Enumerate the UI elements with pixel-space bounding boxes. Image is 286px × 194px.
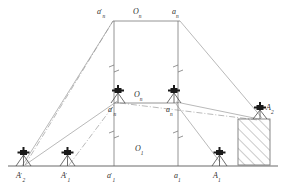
instrument-theodolite-A1prime [60, 147, 75, 166]
instrument-theodolite-A2prime [16, 147, 31, 166]
instrument-mast [259, 102, 261, 106]
instrument-mast [173, 85, 175, 89]
instrument-scope [168, 90, 180, 92]
structure-outline-group [113, 21, 180, 166]
break-mark-right-lower [173, 131, 183, 138]
instrument-theodolite-A1 [212, 147, 227, 166]
label-ground-A2-prime: A′2 [16, 172, 25, 180]
sightline-top-left-to-A2prime-edge [22, 21, 113, 166]
label-ground-a1: a1 [174, 172, 181, 180]
tripod-legs [111, 93, 125, 103]
break-mark-left-upper [109, 65, 119, 72]
instrument-scope [112, 90, 124, 92]
tripod-legs [60, 155, 75, 166]
tripod-legs [167, 93, 181, 103]
tripod-legs [253, 110, 267, 119]
label-top-left-point: a′n [97, 8, 105, 16]
instrument-mast [67, 147, 69, 151]
tripod-legs [16, 155, 31, 166]
sightline-mid-left-to-A2 [120, 103, 258, 120]
break-mark-left-lower [109, 131, 119, 138]
break-marks-group [109, 65, 183, 138]
block-hatch-fill [238, 119, 270, 165]
label-station-A2-elevated: A2 [266, 104, 274, 112]
tripod-legs [212, 155, 227, 166]
instrument-scope [18, 152, 30, 154]
label-top-origin: On [133, 8, 141, 16]
label-mid-right-point: an [166, 106, 173, 114]
instrument-mast [23, 147, 25, 151]
instrument-scope [62, 152, 74, 154]
instrument-theodolite-A2 [253, 102, 267, 119]
instrument-theodolite-mid-right [167, 85, 181, 103]
sightline-top-right-to-A2 [180, 21, 262, 118]
hatched-building-block [238, 119, 270, 165]
instrument-scope [214, 152, 226, 154]
instrument-scope [254, 107, 266, 109]
label-mid-left-point: a′n [108, 106, 116, 114]
label-ground-origin: O1 [135, 145, 143, 153]
diagram-canvas [0, 0, 286, 194]
survey-diagram-figure: a′n On an On a′n an A2 O1 A′2 A′1 a′1 a1… [0, 0, 286, 194]
label-ground-a1-prime: a′1 [107, 172, 115, 180]
instrument-theodolite-mid-left [111, 85, 125, 103]
sightline-A2prime-to-top-left [25, 21, 113, 165]
label-top-right-point: an [172, 8, 179, 16]
break-mark-right-upper [173, 65, 183, 72]
sightline-A2prime-to-mid-left [25, 102, 116, 165]
label-ground-A1-prime: A′1 [61, 172, 70, 180]
sightline-mid-right-to-A2 [176, 102, 259, 119]
instrument-mast [117, 85, 119, 89]
label-mid-origin: On [134, 91, 142, 99]
instrument-mast [219, 147, 221, 151]
label-ground-A1: A1 [213, 172, 221, 180]
